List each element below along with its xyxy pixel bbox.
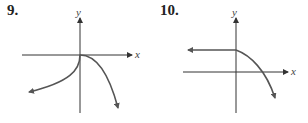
curve-left-branch (29, 55, 80, 92)
graph-9: y x (22, 6, 140, 113)
graphs-figure: y x y x (0, 0, 308, 123)
x-axis-label: x (290, 65, 296, 77)
curve-right-branch (80, 55, 118, 108)
x-axis-label: x (134, 48, 140, 60)
y-axis-label: y (75, 6, 81, 18)
y-axis-label: y (231, 6, 237, 18)
curve-decreasing-branch (236, 50, 275, 98)
graph-10: y x (183, 6, 296, 113)
